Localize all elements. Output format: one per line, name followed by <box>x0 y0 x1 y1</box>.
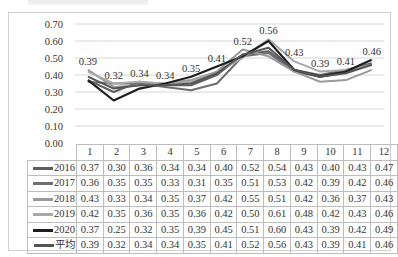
data-table: 123456789101112 20160.370.300.360.340.34… <box>27 144 398 254</box>
table-cell: 0.43 <box>290 238 317 254</box>
legend-line-swatch-icon <box>33 167 53 170</box>
data-label: 0.39 <box>79 56 97 67</box>
table-header-cell: 10 <box>317 145 344 161</box>
table-cell: 0.50 <box>237 207 264 223</box>
table-cell: 0.42 <box>290 191 317 207</box>
table-row: 20160.370.300.360.340.340.400.520.540.43… <box>28 160 398 176</box>
table-cell: 0.42 <box>290 176 317 192</box>
table-cell: 0.42 <box>76 207 103 223</box>
table-cell: 0.36 <box>130 207 157 223</box>
legend-key: 平均 <box>28 238 77 254</box>
table-cell: 0.34 <box>183 160 210 176</box>
table-cell: 0.43 <box>290 222 317 238</box>
table-cell: 0.32 <box>130 222 157 238</box>
table-cell: 0.32 <box>103 238 130 254</box>
legend-line-swatch-icon <box>33 198 53 201</box>
legend-key: 2019 <box>28 207 77 223</box>
table-header-cell: 8 <box>264 145 291 161</box>
legend-line-swatch-icon <box>33 229 53 232</box>
table-cell: 0.61 <box>264 207 291 223</box>
table-cell: 0.43 <box>371 191 398 207</box>
table-cell: 0.56 <box>264 238 291 254</box>
legend-key: 2018 <box>28 191 77 207</box>
table-cell: 0.39 <box>317 238 344 254</box>
table-header-cell: 11 <box>344 145 371 161</box>
table-cell: 0.37 <box>183 191 210 207</box>
table-cell: 0.46 <box>371 176 398 192</box>
legend-line-swatch-icon <box>33 213 53 216</box>
table-row: 20190.420.350.360.350.360.420.500.610.48… <box>28 207 398 223</box>
table-cell: 0.42 <box>210 207 237 223</box>
table-cell: 0.41 <box>210 238 237 254</box>
legend-line-swatch-icon <box>33 182 53 185</box>
table-cell: 0.34 <box>157 238 184 254</box>
y-tick-label: 0.30 <box>45 87 63 98</box>
table-cell: 0.40 <box>210 160 237 176</box>
legend-line-swatch-icon <box>34 244 54 247</box>
legend-label: 2016 <box>54 162 75 173</box>
table-cell: 0.39 <box>317 222 344 238</box>
table-cell: 0.60 <box>264 222 291 238</box>
table-cell: 0.35 <box>157 191 184 207</box>
table-corner <box>28 145 77 161</box>
table-header-cell: 6 <box>210 145 237 161</box>
table-header-cell: 9 <box>290 145 317 161</box>
table-cell: 0.33 <box>103 191 130 207</box>
table-cell: 0.51 <box>264 191 291 207</box>
table-cell: 0.47 <box>371 160 398 176</box>
data-label: 0.46 <box>363 46 381 57</box>
table-cell: 0.43 <box>344 207 371 223</box>
table-cell: 0.37 <box>76 160 103 176</box>
table-row: 20200.370.250.320.350.390.450.510.600.43… <box>28 222 398 238</box>
table-header-cell: 7 <box>237 145 264 161</box>
table-cell: 0.40 <box>317 160 344 176</box>
table-cell: 0.39 <box>183 222 210 238</box>
table-cell: 0.46 <box>371 238 398 254</box>
table-cell: 0.36 <box>183 207 210 223</box>
table-cell: 0.52 <box>237 238 264 254</box>
table-cell: 0.35 <box>103 207 130 223</box>
data-label: 0.56 <box>259 25 277 36</box>
table-cell: 0.25 <box>103 222 130 238</box>
table-cell: 0.42 <box>344 176 371 192</box>
data-label: 0.52 <box>234 36 252 47</box>
y-tick-label: 0.20 <box>45 104 63 115</box>
data-label: 0.39 <box>311 58 329 69</box>
y-axis: 0.700.600.500.400.300.200.100.00 <box>45 19 63 149</box>
table-cell: 0.39 <box>76 238 103 254</box>
table-cell: 0.42 <box>210 191 237 207</box>
table-cell: 0.35 <box>183 238 210 254</box>
table-cell: 0.37 <box>344 191 371 207</box>
data-label: 0.32 <box>105 70 123 81</box>
y-tick-label: 0.50 <box>45 53 63 64</box>
data-label: 0.41 <box>337 56 355 67</box>
table-cell: 0.52 <box>237 160 264 176</box>
table-cell: 0.54 <box>264 160 291 176</box>
legend-label: 2019 <box>54 208 75 219</box>
table-cell: 0.39 <box>317 176 344 192</box>
legend-key: 2016 <box>28 160 77 176</box>
table-cell: 0.36 <box>317 191 344 207</box>
table-header-cell: 12 <box>371 145 398 161</box>
table-row: 20170.360.350.350.330.310.350.510.530.42… <box>28 176 398 192</box>
table-cell: 0.34 <box>157 160 184 176</box>
table-cell: 0.34 <box>130 238 157 254</box>
data-label: 0.34 <box>130 68 149 79</box>
table-row: 20180.430.330.340.350.370.420.550.510.42… <box>28 191 398 207</box>
table-cell: 0.36 <box>130 160 157 176</box>
data-label: 0.43 <box>285 47 303 58</box>
table-header-cell: 1 <box>76 145 103 161</box>
table-cell: 0.31 <box>183 176 210 192</box>
table-header-cell: 5 <box>183 145 210 161</box>
table-cell: 0.35 <box>103 176 130 192</box>
y-tick-label: 0.10 <box>45 121 63 132</box>
table-cell: 0.33 <box>157 176 184 192</box>
table-cell: 0.35 <box>130 176 157 192</box>
table-cell: 0.36 <box>76 176 103 192</box>
table-header-row: 123456789101112 <box>28 145 398 161</box>
table-cell: 0.35 <box>210 176 237 192</box>
y-tick-label: 0.60 <box>45 36 63 47</box>
table-cell: 0.42 <box>317 207 344 223</box>
table-cell: 0.35 <box>157 222 184 238</box>
table-cell: 0.49 <box>371 222 398 238</box>
